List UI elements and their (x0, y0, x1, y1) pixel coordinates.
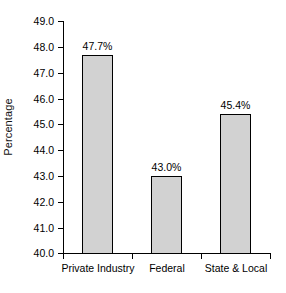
bar-federal[interactable] (151, 176, 182, 254)
x-tick-mark (132, 254, 133, 259)
y-tick-label: 44.0 (18, 145, 54, 155)
y-tick-label: 48.0 (18, 42, 54, 52)
y-tick-mark (58, 73, 63, 74)
bar-value-federal: 43.0% (141, 162, 192, 173)
y-tick-label: 49.0 (18, 16, 54, 26)
y-tick-label: 40.0 (18, 248, 54, 258)
y-tick-label: 46.0 (18, 94, 54, 104)
bar-private-industry[interactable] (82, 55, 113, 254)
bar-value-state-and-local: 45.4% (210, 100, 261, 111)
x-tick-mark (201, 254, 202, 259)
x-tick-mark (270, 254, 271, 259)
bar-value-private-industry: 47.7% (72, 41, 123, 52)
y-tick-label: 45.0 (18, 119, 54, 129)
y-tick-mark (58, 99, 63, 100)
y-tick-mark (58, 202, 63, 203)
y-axis-title-text: Percentage (2, 98, 14, 155)
y-tick-mark (58, 150, 63, 151)
y-tick-mark (58, 124, 63, 125)
x-category-label-state-and-local: State & Local (195, 262, 277, 274)
y-tick-mark (58, 21, 63, 22)
x-category-label-federal: Federal (131, 262, 203, 274)
y-tick-mark (58, 47, 63, 48)
bar-chart: Percentage 49.0 48.0 47.0 46.0 45.0 44.0… (0, 0, 286, 293)
y-tick-mark (58, 176, 63, 177)
y-tick-label: 42.0 (18, 197, 54, 207)
y-tick-label: 43.0 (18, 171, 54, 181)
y-axis-line (63, 21, 64, 254)
x-tick-mark (63, 254, 64, 259)
y-axis-title: Percentage (0, 0, 16, 253)
y-tick-mark (58, 228, 63, 229)
y-tick-label: 47.0 (18, 68, 54, 78)
y-tick-label: 41.0 (18, 223, 54, 233)
bar-state-and-local[interactable] (220, 114, 251, 254)
x-category-label-private-industry: Private Industry (53, 262, 143, 274)
